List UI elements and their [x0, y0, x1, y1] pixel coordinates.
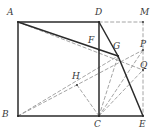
vertex-label-f: F [88, 36, 94, 45]
vertex-dot-e [142, 115, 144, 117]
vertex-label-a: A [7, 8, 14, 17]
vertex-dot-g [117, 55, 119, 57]
geometry-canvas [0, 0, 156, 132]
vertex-dot-p [142, 49, 144, 51]
vertex-dot-b [17, 115, 19, 117]
segment-AG [18, 22, 118, 56]
dashed-construction-lines [18, 22, 143, 116]
vertex-label-h: H [72, 72, 80, 81]
vertex-dot-f [98, 49, 100, 51]
segment-CH [77, 85, 99, 116]
vertex-dots [17, 21, 144, 117]
vertex-label-e: E [139, 120, 146, 129]
vertex-dot-h [76, 84, 78, 86]
vertex-label-g: G [113, 42, 120, 51]
vertex-dot-d [98, 21, 100, 23]
segment-CP [99, 50, 143, 116]
vertex-dot-a [17, 21, 19, 23]
segment-BP [18, 50, 143, 116]
solid-construction-lines [18, 22, 143, 116]
geometry-figure: ABCDEFGHMPQ [0, 0, 156, 132]
vertex-dot-m [142, 21, 144, 23]
vertex-dot-c [98, 115, 100, 117]
vertex-label-c: C [94, 120, 101, 129]
segment-AQ [18, 22, 143, 70]
vertex-label-p: P [140, 40, 146, 49]
vertex-label-q: Q [140, 61, 147, 70]
vertex-label-d: D [95, 8, 102, 17]
segment-BG [18, 56, 118, 116]
segment-CQ [99, 70, 143, 116]
vertex-label-m: M [140, 8, 149, 17]
segment-CG [99, 56, 118, 116]
vertex-label-b: B [2, 110, 9, 119]
